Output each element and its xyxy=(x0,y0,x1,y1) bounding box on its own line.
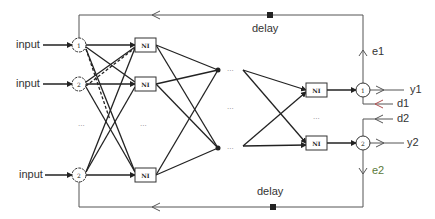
input-label-2: input xyxy=(16,78,40,89)
svg-text:NI: NI xyxy=(312,87,320,94)
ni-block-1: NI xyxy=(135,38,156,52)
ni-block-2: NI xyxy=(135,77,156,91)
svg-text:1: 1 xyxy=(77,42,81,49)
input-neurons: 1 2 2 xyxy=(72,38,86,182)
svg-text:1: 1 xyxy=(361,87,365,94)
input-neuron-n: 2 xyxy=(72,168,86,182)
input-label-n: input xyxy=(19,169,43,180)
input-neuron-2: 2 xyxy=(72,77,86,91)
delay-label-bottom: delay xyxy=(257,186,283,197)
ellipsis-out-ni: ... xyxy=(313,113,320,121)
ni-to-hidden-connections xyxy=(156,45,218,175)
ni-block-out-2: NI xyxy=(306,136,327,150)
svg-text:NI: NI xyxy=(141,42,149,49)
hidden-to-output-connections xyxy=(243,70,306,146)
input-label-1: input xyxy=(16,39,40,50)
error-label-e1: e1 xyxy=(372,46,384,57)
output-arrows xyxy=(327,90,356,143)
ellipsis-hidden-3: ... xyxy=(227,143,234,151)
target-label-d2: d2 xyxy=(397,113,409,124)
ni-block-n: NI xyxy=(135,168,156,182)
output-neuron-2: 2 xyxy=(356,136,370,150)
input-neuron-1: 1 xyxy=(72,38,86,52)
input-to-ni-connections xyxy=(86,45,135,175)
svg-text:NI: NI xyxy=(141,172,149,179)
delay-marker-bottom xyxy=(270,204,276,210)
output-label-y1: y1 xyxy=(410,84,422,95)
svg-text:2: 2 xyxy=(361,140,365,147)
svg-text:NI: NI xyxy=(312,140,320,147)
ni-block-out-1: NI xyxy=(306,83,327,97)
input-arrows xyxy=(43,45,72,175)
svg-text:2: 2 xyxy=(77,172,81,179)
svg-text:NI: NI xyxy=(141,81,149,88)
svg-text:2: 2 xyxy=(77,81,81,88)
bottom-feedback-loop xyxy=(79,150,367,211)
output-neurons: 1 2 xyxy=(356,83,370,150)
ellipsis-inputs: ... xyxy=(78,120,85,128)
network-diagram: 1 2 2 NI NI NI NI NI xyxy=(0,0,435,219)
target-label-d1: d1 xyxy=(397,98,409,109)
hidden-nodes xyxy=(216,68,221,151)
ellipsis-hidden-2: ... xyxy=(227,103,234,111)
ellipsis-hidden-1: ... xyxy=(227,65,234,73)
output-neuron-1: 1 xyxy=(356,83,370,97)
target-lines xyxy=(363,97,393,136)
delay-marker-top xyxy=(267,12,273,18)
ellipsis-ni: ... xyxy=(140,120,147,128)
error-label-e2: e2 xyxy=(372,165,384,176)
output-label-y2: y2 xyxy=(407,137,419,148)
delay-label-top: delay xyxy=(252,23,278,34)
